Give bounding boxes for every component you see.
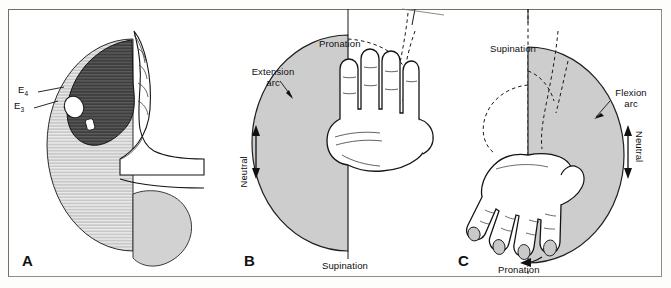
panel-c-graphic: [444, 9, 662, 277]
panel-letter-c: C: [458, 252, 469, 269]
panel-letter-b: B: [244, 252, 255, 269]
label-supination: Supination: [490, 44, 536, 55]
label-pronation: Pronation: [319, 39, 361, 50]
hand-silhouette: [327, 49, 428, 171]
panel-b: Pronation Extensionarc Neutral Supinatio…: [230, 9, 444, 277]
panel-a-graphic: [8, 9, 230, 277]
panel-letter-a: A: [22, 252, 33, 269]
panel-c: Supination Flexionarc Neutral Pronation …: [444, 9, 662, 277]
panel-a: E4 E3 A: [8, 9, 230, 277]
dark-arc-region: [67, 40, 134, 145]
neutral-arrow: [624, 125, 632, 179]
label-neutral: Neutral: [634, 131, 645, 162]
forearm-axis-line: [412, 9, 415, 25]
label-supination: Supination: [322, 261, 368, 272]
label-neutral: Neutral: [239, 156, 250, 187]
label-e3: E3: [14, 101, 24, 115]
label-flexion-arc: Flexionarc: [604, 88, 658, 109]
lower-lobe-region: [133, 191, 192, 266]
label-extension-arc: Extensionarc: [242, 67, 304, 88]
figure-root: E4 E3 A: [0, 0, 671, 288]
label-pronation: Pronation: [498, 265, 540, 276]
label-e4: E4: [18, 85, 28, 99]
